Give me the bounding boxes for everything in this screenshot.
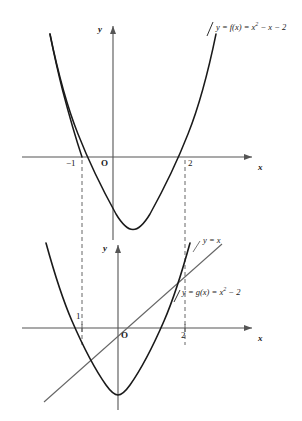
bottom-tick-label-1: 1 xyxy=(76,312,81,321)
leader-f-label xyxy=(207,22,213,36)
bottom-y-axis-label: y xyxy=(103,244,107,253)
top-panel-axes xyxy=(22,26,252,240)
equation-f-lhs: y = f(x) = x xyxy=(216,22,255,32)
figure-canvas xyxy=(0,0,302,421)
equation-g-rhs: − 2 xyxy=(226,287,240,297)
leader-yx-label xyxy=(193,241,200,252)
top-y-axis-arrow xyxy=(110,26,116,34)
equation-f-label: y = f(x) = x2 − x − 2 xyxy=(216,21,286,31)
top-y-axis-label: y xyxy=(98,25,102,34)
top-x-axis-label: x xyxy=(258,163,263,172)
line-y-equals-x xyxy=(44,244,222,402)
curve-f-main xyxy=(50,34,216,230)
bottom-origin-label: O xyxy=(121,331,128,340)
equation-f-rhs: − x − 2 xyxy=(258,22,286,32)
top-x-axis-arrow xyxy=(244,154,252,160)
top-tick-label-neg1: −1 xyxy=(66,159,76,168)
bottom-x-axis-arrow xyxy=(244,325,252,331)
top-origin-label: O xyxy=(101,159,108,168)
equation-g-lhs: y = g(x) = x xyxy=(182,287,223,297)
bottom-tick-label-2: 2 xyxy=(181,331,186,340)
equation-g-label: y = g(x) = x2 − 2 xyxy=(182,286,240,296)
dashed-connector-group xyxy=(82,160,185,345)
top-tick-label-2: 2 xyxy=(188,159,193,168)
curve-f xyxy=(50,34,82,157)
bottom-panel-axes xyxy=(22,245,252,410)
bottom-y-axis-arrow xyxy=(115,245,121,253)
bottom-x-axis-label: x xyxy=(258,334,263,343)
math-figure: y x O −1 2 y = f(x) = x2 − x − 2 y x O 1… xyxy=(0,0,302,421)
line-y-equals-x-label: y = x xyxy=(203,236,221,245)
